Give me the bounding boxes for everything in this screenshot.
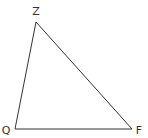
vertex-label-q: Q [2,124,11,137]
triangle-diagram: Z Q F [0,0,148,138]
vertex-label-f: F [136,124,142,137]
vertex-label-z: Z [32,5,40,18]
triangle-zqf [15,22,132,129]
